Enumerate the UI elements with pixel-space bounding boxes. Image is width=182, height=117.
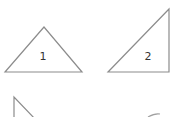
triangles-diagram: 1 2 bbox=[0, 0, 182, 117]
triangle-2: 2 bbox=[108, 9, 169, 72]
triangle-2-label: 2 bbox=[145, 50, 152, 63]
shape-4 bbox=[148, 114, 160, 117]
triangle-3 bbox=[14, 97, 36, 117]
triangle-2-outline bbox=[108, 9, 169, 72]
triangle-3-outline bbox=[14, 97, 36, 117]
triangle-1: 1 bbox=[5, 27, 82, 72]
triangle-1-label: 1 bbox=[40, 50, 47, 63]
shape-4-outline bbox=[148, 114, 160, 117]
